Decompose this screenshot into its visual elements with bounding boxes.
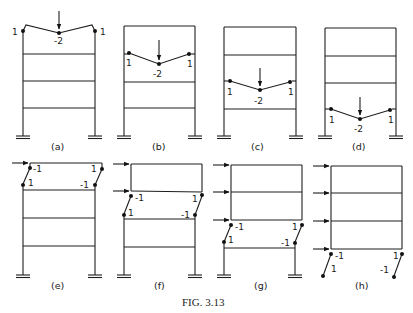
panel-label: (h) (355, 280, 368, 291)
hinge-value: 1 (288, 87, 294, 97)
panel-label: (g) (254, 280, 267, 291)
hinge-value: 1 (329, 115, 335, 125)
panel-label: (f) (154, 280, 165, 291)
hinge-value: 1 (228, 235, 234, 245)
hinge-value: -2 (254, 96, 263, 106)
hinge-value: 1 (28, 178, 34, 188)
panel-f: -1 1 1 -1 (f) (113, 164, 204, 291)
hinge-value: -1 (281, 238, 290, 248)
hinge-value: 1 (227, 87, 233, 97)
panel-label: (d) (352, 141, 365, 152)
hinge-value: -1 (335, 251, 344, 261)
hinge-value: 1 (187, 59, 193, 69)
hinge-value: -1 (135, 193, 144, 203)
hinge-value: -1 (33, 164, 42, 174)
panel-label: (c) (251, 141, 264, 152)
panel-h: -1 1 1 -1 (h) (313, 166, 404, 291)
hinge-value: 1 (100, 27, 106, 37)
hinge-value: 1 (192, 194, 198, 204)
panel-label: (e) (51, 280, 64, 291)
panel-a: 1 -2 1 (a) (12, 11, 106, 152)
hinge-value: -2 (153, 69, 162, 79)
panel-c: 1 -2 1 (c) (217, 27, 303, 152)
hinge-value: -2 (354, 124, 363, 134)
hinge-value: 1 (126, 58, 132, 68)
hinge-value: 1 (393, 251, 399, 261)
hinge-value: 1 (12, 27, 18, 37)
panel-g: -1 1 1 -1 (g) (213, 165, 304, 291)
hinge-value: -1 (235, 222, 244, 232)
hinge-value: -1 (380, 265, 389, 275)
hinge-value: 1 (331, 264, 337, 274)
hinge-value: 1 (292, 222, 298, 232)
figure-caption: FIG. 3.13 (182, 296, 225, 308)
panel-b: 1 -2 1 (b) (117, 26, 202, 152)
panel-e: -1 1 1 -1 (e) (12, 163, 104, 291)
hinge-value: -1 (80, 180, 89, 190)
panel-d: 1 -2 1 (d) (318, 28, 403, 152)
collapse-mechanisms-figure: 1 -2 1 (a) 1 -2 1 (b) (0, 0, 413, 313)
hinge-value: 1 (91, 164, 97, 174)
hinge-value: 1 (128, 208, 134, 218)
hinge-value: -2 (54, 36, 63, 46)
panel-label: (a) (51, 141, 64, 152)
hinge-value: 1 (388, 115, 394, 125)
panel-label: (b) (152, 141, 165, 152)
